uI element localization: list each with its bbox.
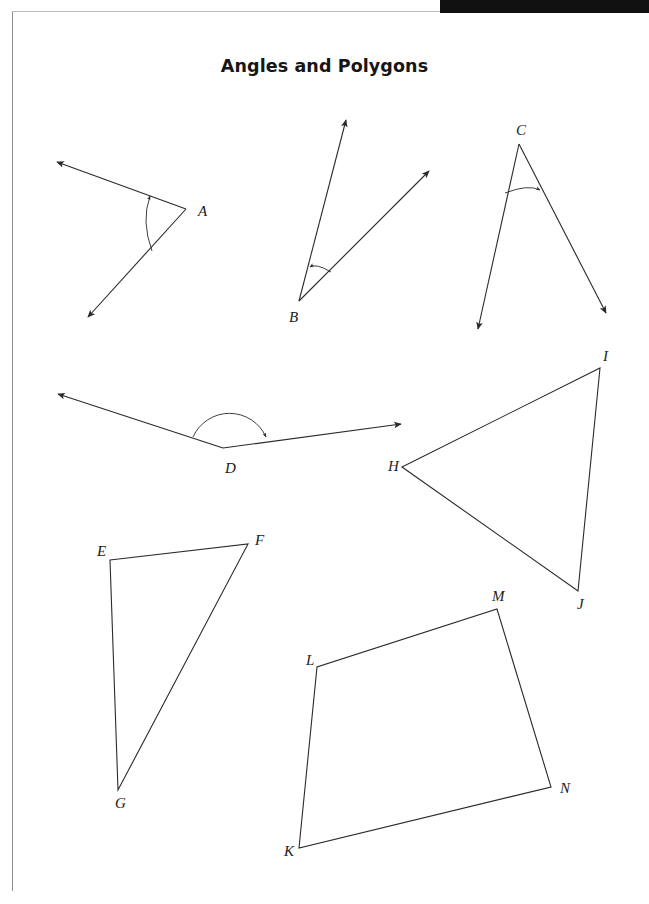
angle-a-ray-2 — [88, 209, 186, 317]
triangle-efg-outline — [110, 544, 248, 790]
angle-c-ray-2 — [519, 144, 606, 313]
triangle-efg-label-g: G — [115, 795, 126, 811]
figures-canvas: A B C D E F G — [0, 0, 649, 904]
figure-angle-a: A — [57, 162, 208, 317]
triangle-hij-label-h: H — [387, 458, 400, 474]
figure-triangle-efg: E F G — [96, 532, 265, 811]
angle-b-arc — [310, 266, 331, 272]
angle-c-ray-1 — [478, 144, 519, 329]
quadrilateral-klmn-outline — [299, 609, 551, 848]
triangle-efg-label-e: E — [96, 543, 106, 559]
worksheet-page: Angles and Polygons A B — [0, 0, 649, 904]
triangle-efg-label-f: F — [254, 532, 265, 548]
angle-d-arc — [193, 413, 266, 437]
figure-angle-d: D — [58, 394, 401, 476]
figure-triangle-hij: H I J — [387, 348, 609, 612]
angle-c-label: C — [516, 122, 527, 138]
figure-quadrilateral-klmn: K L M N — [283, 588, 571, 859]
quadrilateral-klmn-label-m: M — [491, 588, 506, 604]
angle-d-ray-2 — [223, 424, 401, 448]
figure-angle-b: B — [289, 120, 429, 325]
figure-angle-c: C — [478, 122, 606, 329]
angle-d-ray-1 — [58, 394, 223, 448]
angle-b-ray-1 — [299, 120, 346, 301]
angle-a-label: A — [197, 203, 208, 219]
triangle-hij-label-j: J — [577, 596, 585, 612]
angle-b-ray-2 — [299, 171, 429, 301]
quadrilateral-klmn-label-k: K — [283, 843, 295, 859]
angle-a-ray-1 — [57, 162, 186, 209]
angle-d-label: D — [224, 460, 236, 476]
triangle-hij-label-i: I — [602, 348, 609, 364]
triangle-hij-outline — [402, 368, 600, 591]
angle-a-arc — [146, 196, 152, 251]
angle-c-arc — [505, 188, 540, 193]
angle-b-label: B — [289, 309, 298, 325]
quadrilateral-klmn-label-n: N — [559, 780, 571, 796]
quadrilateral-klmn-label-l: L — [305, 652, 314, 668]
